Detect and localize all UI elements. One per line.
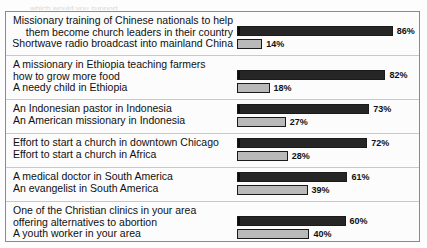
bar-line-bottom: 18% bbox=[237, 83, 419, 93]
bar-top bbox=[237, 104, 369, 114]
bar-group-labels: One of the Christian clinics in your are… bbox=[6, 205, 237, 240]
bar-value-label-bottom: 40% bbox=[313, 229, 331, 239]
cropped-text-line: which would you support bbox=[30, 4, 118, 10]
bar-value-label-top: 61% bbox=[351, 172, 369, 182]
bar-bottom bbox=[237, 39, 262, 49]
bar-line-bottom: 39% bbox=[237, 185, 419, 195]
bar-group-labels: A medical doctor in South AmericaAn evan… bbox=[6, 171, 237, 194]
bar-value-label-top: 60% bbox=[350, 216, 368, 226]
bar-group-row: Effort to start a church in downtown Chi… bbox=[6, 137, 419, 164]
bar-group-row: One of the Christian clinics in your are… bbox=[6, 205, 419, 242]
bar-line-bottom: 14% bbox=[237, 39, 419, 49]
bar-group-row: A missionary in Ethiopia teaching farmer… bbox=[6, 59, 419, 96]
bar-value-label-top: 86% bbox=[397, 26, 415, 36]
bar-group: A missionary in Ethiopia teaching farmer… bbox=[6, 56, 419, 100]
bar-label-primary: Missionary training of Chinese nationals… bbox=[6, 15, 233, 38]
bar-group-labels: Effort to start a church in downtown Chi… bbox=[6, 137, 237, 160]
bar-label-secondary: Shortwave radio broadcast into mainland … bbox=[6, 38, 233, 50]
bar-label-secondary: An evangelist in South America bbox=[13, 183, 233, 195]
bar-top bbox=[237, 216, 346, 226]
bar-group-bars: 73%27% bbox=[237, 103, 419, 130]
bar-group-bars: 86%14% bbox=[237, 15, 419, 52]
bar-group: A medical doctor in South AmericaAn evan… bbox=[6, 168, 419, 202]
bar-group-bars: 72%28% bbox=[237, 137, 419, 164]
bar-group-labels: Missionary training of Chinese nationals… bbox=[6, 15, 237, 50]
bar-group: Effort to start a church in downtown Chi… bbox=[6, 134, 419, 168]
bar-bottom bbox=[237, 229, 309, 239]
bar-line-top: 82% bbox=[237, 70, 419, 80]
cropped-text-above-chart: which would you support bbox=[0, 0, 427, 10]
bar-line-bottom: 27% bbox=[237, 117, 419, 127]
bar-top bbox=[237, 70, 385, 80]
bar-line-bottom: 40% bbox=[237, 229, 419, 239]
bar-line-top: 60% bbox=[237, 216, 419, 226]
bar-label-secondary: A youth worker in your area bbox=[13, 228, 233, 240]
bar-line-top: 86% bbox=[237, 26, 419, 36]
bar-value-label-top: 73% bbox=[373, 104, 391, 114]
bar-label-primary: Effort to start a church in downtown Chi… bbox=[13, 137, 233, 149]
bar-value-label-bottom: 27% bbox=[290, 117, 308, 127]
bar-group: Missionary training of Chinese nationals… bbox=[6, 12, 419, 56]
bar-line-top: 73% bbox=[237, 104, 419, 114]
bar-value-label-bottom: 14% bbox=[266, 39, 284, 49]
bar-value-label-top: 72% bbox=[371, 138, 389, 148]
bar-label-secondary: A needy child in Ethiopia bbox=[13, 82, 233, 94]
bar-value-label-bottom: 28% bbox=[292, 151, 310, 161]
bar-line-top: 72% bbox=[237, 138, 419, 148]
bar-group-labels: An Indonesian pastor in IndonesiaAn Amer… bbox=[6, 103, 237, 126]
bar-groups-container: Missionary training of Chinese nationals… bbox=[6, 12, 419, 242]
bar-line-top: 61% bbox=[237, 172, 419, 182]
bar-group-bars: 61%39% bbox=[237, 171, 419, 198]
bar-bottom bbox=[237, 117, 286, 127]
bar-label-secondary: An American missionary in Indonesia bbox=[13, 115, 233, 127]
bar-label-primary: An Indonesian pastor in Indonesia bbox=[13, 103, 233, 115]
bar-value-label-bottom: 39% bbox=[312, 185, 330, 195]
bar-group-row: Missionary training of Chinese nationals… bbox=[6, 15, 419, 52]
bar-top bbox=[237, 138, 367, 148]
chart-frame: Missionary training of Chinese nationals… bbox=[5, 11, 420, 242]
bar-value-label-bottom: 18% bbox=[274, 83, 292, 93]
bar-bottom bbox=[237, 151, 288, 161]
bar-top bbox=[237, 172, 347, 182]
bar-top bbox=[237, 26, 393, 36]
bar-bottom bbox=[237, 83, 270, 93]
bar-group-labels: A missionary in Ethiopia teaching farmer… bbox=[6, 59, 237, 94]
bar-group-row: A medical doctor in South AmericaAn evan… bbox=[6, 171, 419, 198]
bar-label-primary: A medical doctor in South America bbox=[13, 171, 233, 183]
bar-line-bottom: 28% bbox=[237, 151, 419, 161]
bar-group-bars: 82%18% bbox=[237, 59, 419, 96]
bar-group-bars: 60%40% bbox=[237, 205, 419, 242]
bar-label-secondary: Effort to start a church in Africa bbox=[13, 149, 233, 161]
bar-group: One of the Christian clinics in your are… bbox=[6, 202, 419, 242]
bar-value-label-top: 82% bbox=[389, 70, 407, 80]
bar-group: An Indonesian pastor in IndonesiaAn Amer… bbox=[6, 100, 419, 134]
bar-bottom bbox=[237, 185, 308, 195]
bar-group-row: An Indonesian pastor in IndonesiaAn Amer… bbox=[6, 103, 419, 130]
bar-label-primary: A missionary in Ethiopia teaching farmer… bbox=[13, 59, 233, 82]
bar-label-primary: One of the Christian clinics in your are… bbox=[13, 205, 233, 228]
